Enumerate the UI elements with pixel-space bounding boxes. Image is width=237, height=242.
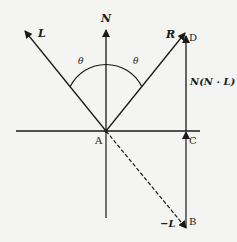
reflection-diagram <box>0 0 237 242</box>
label-theta-left: θ <box>78 57 83 66</box>
label-projection: N(N · L) <box>190 77 235 87</box>
label-l: L <box>38 28 46 39</box>
label-a: A <box>95 136 102 146</box>
label-c: C <box>189 136 197 146</box>
label-r: R <box>166 29 175 40</box>
label-n: N <box>101 13 111 24</box>
label-b: B <box>189 217 196 227</box>
label-neg-l: −L <box>160 219 175 229</box>
neg-l-vector-arrow <box>106 131 186 228</box>
r-vector-arrow <box>106 33 185 131</box>
label-theta-right: θ <box>133 57 138 66</box>
point-a-dot <box>104 129 107 132</box>
l-vector-arrow <box>25 31 106 131</box>
label-d: D <box>189 33 197 43</box>
